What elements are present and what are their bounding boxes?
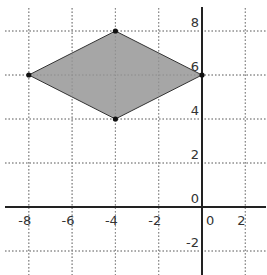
y-tick-label: 2 <box>191 147 199 162</box>
x-tick-label: -4 <box>105 213 118 228</box>
vertex-point <box>113 28 118 33</box>
vertex-point <box>26 72 31 77</box>
y-tick-label: 6 <box>191 59 199 74</box>
x-tick-label: -8 <box>18 213 31 228</box>
y-tick-label: 0 <box>191 191 199 206</box>
x-tick-label: -2 <box>148 213 161 228</box>
y-tick-label: 4 <box>191 103 199 118</box>
x-tick-labels: -8-6-4-202 <box>18 213 245 228</box>
y-tick-label: 8 <box>191 15 199 30</box>
y-tick-labels: 86420-2 <box>186 15 199 250</box>
x-tick-label: 2 <box>237 213 245 228</box>
coordinate-plane: -8-6-4-202 86420-2 <box>0 0 267 275</box>
vertex-point <box>113 116 118 121</box>
y-tick-label: -2 <box>186 235 199 250</box>
vertex-point <box>199 72 204 77</box>
x-tick-label: -6 <box>62 213 75 228</box>
x-tick-label: 0 <box>206 213 214 228</box>
